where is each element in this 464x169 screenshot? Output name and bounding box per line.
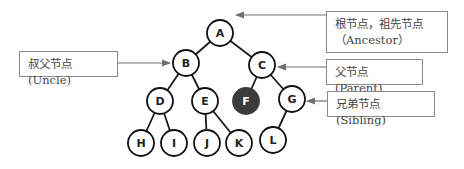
ancestor-callout: 根节点，祖先节点 （Ancestor）	[326, 11, 448, 53]
node-J: J	[194, 130, 220, 156]
uncle-callout-label: 叔父节点(Uncle)	[28, 57, 72, 87]
uncle-callout: 叔父节点(Uncle)	[19, 51, 118, 77]
parent-callout: 父节点(Parent)	[326, 59, 423, 85]
svg-text:A: A	[216, 27, 225, 40]
node-C: C	[249, 52, 275, 78]
svg-text:F: F	[242, 95, 250, 108]
svg-text:J: J	[204, 137, 209, 150]
node-B: B	[173, 50, 199, 76]
node-K: K	[226, 130, 252, 156]
ancestor-callout-line1: 根节点，祖先节点	[335, 16, 439, 32]
svg-text:I: I	[172, 137, 176, 150]
svg-text:G: G	[287, 93, 296, 106]
node-I: I	[161, 130, 187, 156]
node-F: F	[233, 88, 259, 114]
svg-text:C: C	[258, 59, 266, 72]
node-L: L	[260, 127, 286, 153]
svg-text:L: L	[269, 134, 276, 147]
ancestor-callout-line2: （Ancestor）	[335, 32, 439, 48]
node-G: G	[279, 86, 305, 112]
sibling-callout: 兄弟节点(Sibling)	[327, 91, 435, 117]
node-H: H	[128, 130, 154, 156]
sibling-callout-label: 兄弟节点(Sibling)	[336, 97, 386, 127]
tree-nodes: ABCDEFGHIJKL	[128, 20, 305, 156]
node-D: D	[147, 88, 173, 114]
svg-text:K: K	[235, 137, 244, 150]
node-E: E	[192, 88, 218, 114]
svg-text:H: H	[136, 137, 145, 150]
svg-text:B: B	[182, 57, 190, 70]
node-A: A	[207, 20, 233, 46]
svg-text:E: E	[201, 95, 209, 108]
svg-text:D: D	[155, 95, 164, 108]
